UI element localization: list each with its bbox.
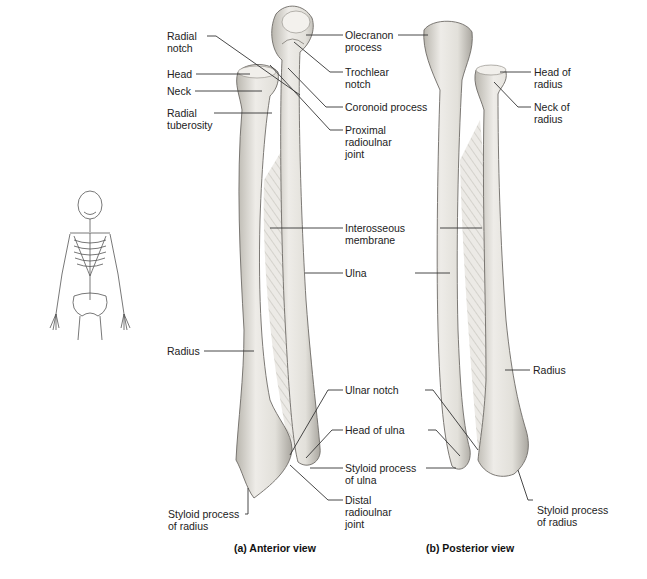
label-line: notch	[167, 42, 197, 54]
skeleton-icon	[50, 191, 130, 340]
label-line: Proximal	[345, 124, 392, 136]
label-line: of radius	[537, 516, 608, 528]
label-head-of-ulna: Head of ulna	[345, 424, 405, 436]
label-interosseous-membrane: Interosseous membrane	[345, 222, 405, 246]
label-line: process	[345, 41, 393, 53]
label-head-of-radius: Head of radius	[534, 66, 571, 90]
label-proximal-radioulnar-joint: Proximal radioulnar joint	[345, 124, 392, 160]
label-radius-anterior: Radius	[167, 345, 200, 357]
label-line: tuberosity	[167, 119, 213, 131]
label-line: of radius	[168, 520, 239, 532]
label-trochlear-notch: Trochlear notch	[345, 66, 389, 90]
label-radial-notch: Radial notch	[167, 30, 197, 54]
label-line: Styloid process	[537, 504, 608, 516]
label-ulna: Ulna	[345, 267, 367, 279]
label-neck-of-radius: Neck of radius	[534, 101, 570, 125]
label-line: Radial	[167, 30, 197, 42]
label-radius-posterior: Radius	[533, 364, 566, 376]
label-line: radioulnar	[345, 136, 392, 148]
radius-ulna-figure: Radial notch Head Neck Radial tuberosity…	[0, 0, 647, 579]
caption-posterior-view: (b) Posterior view	[426, 542, 514, 554]
label-line: Styloid process	[168, 508, 239, 520]
label-line: Interosseous	[345, 222, 405, 234]
caption-anterior-view: (a) Anterior view	[234, 542, 316, 554]
label-line: Radial	[167, 107, 213, 119]
label-head: Head	[167, 68, 192, 80]
label-line: Neck of	[534, 101, 570, 113]
label-line: membrane	[345, 234, 405, 246]
label-olecranon-process: Olecranon process	[345, 29, 393, 53]
label-radial-tuberosity: Radial tuberosity	[167, 107, 213, 131]
label-line: Distal	[345, 494, 392, 506]
label-line: Trochlear	[345, 66, 389, 78]
label-coronoid-process: Coronoid process	[345, 101, 427, 113]
label-distal-radioulnar-joint: Distal radioulnar joint	[345, 494, 392, 530]
label-line: Olecranon	[345, 29, 393, 41]
label-line: of ulna	[345, 474, 416, 486]
label-line: Head of	[534, 66, 571, 78]
label-line: Styloid process	[345, 462, 416, 474]
label-line: radioulnar	[345, 506, 392, 518]
label-line: radius	[534, 113, 570, 125]
label-styloid-process-radius-anterior: Styloid process of radius	[168, 508, 239, 532]
label-line: radius	[534, 78, 571, 90]
label-ulnar-notch: Ulnar notch	[345, 384, 399, 396]
label-styloid-process-radius-posterior: Styloid process of radius	[537, 504, 608, 528]
label-line: joint	[345, 148, 392, 160]
label-line: notch	[345, 78, 389, 90]
label-line: joint	[345, 518, 392, 530]
label-styloid-process-ulna: Styloid process of ulna	[345, 462, 416, 486]
label-neck: Neck	[167, 85, 191, 97]
